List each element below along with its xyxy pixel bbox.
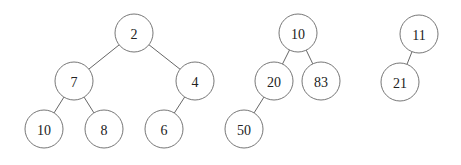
node-label: 8 xyxy=(101,123,108,138)
tree-node: 11 xyxy=(400,15,438,53)
node-label: 11 xyxy=(412,28,425,43)
tree-node: 21 xyxy=(381,63,419,101)
edge-4-6 xyxy=(174,97,184,113)
tree-node: 50 xyxy=(225,110,263,148)
edge-7-10 xyxy=(54,97,64,113)
tree-node: 20 xyxy=(255,62,293,100)
tree-node: 4 xyxy=(176,62,214,100)
edge-10-83 xyxy=(306,50,313,64)
tree-node: 10 xyxy=(25,110,63,148)
edge-10-20 xyxy=(282,50,289,64)
edges-layer xyxy=(54,45,412,113)
node-label: 6 xyxy=(161,123,168,138)
node-label: 4 xyxy=(192,75,199,90)
node-label: 50 xyxy=(237,123,251,138)
node-label: 21 xyxy=(393,76,407,91)
edge-2-4 xyxy=(149,45,180,70)
edge-2-7 xyxy=(89,45,119,69)
tree-node: 7 xyxy=(55,62,93,100)
tree-node: 10 xyxy=(279,14,317,52)
edge-11-21 xyxy=(407,52,412,65)
node-label: 83 xyxy=(314,75,328,90)
node-label: 10 xyxy=(37,123,51,138)
tree-forest-diagram: 2741086102083501121 xyxy=(0,0,461,165)
node-label: 2 xyxy=(131,27,138,42)
tree-node: 2 xyxy=(115,14,153,52)
node-label: 20 xyxy=(267,75,281,90)
node-label: 7 xyxy=(71,75,78,90)
tree-3 xyxy=(407,52,412,65)
edge-7-8 xyxy=(84,97,94,113)
nodes-layer: 2741086102083501121 xyxy=(25,14,438,148)
tree-node: 83 xyxy=(302,62,340,100)
edge-20-50 xyxy=(254,97,264,113)
tree-node: 6 xyxy=(145,110,183,148)
tree-node: 8 xyxy=(85,110,123,148)
node-label: 10 xyxy=(291,27,305,42)
